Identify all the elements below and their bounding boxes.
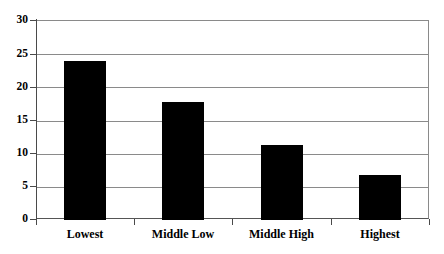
y-tick-label-25: 25 [0, 48, 28, 60]
x-tick-label-middle-low: Middle Low [134, 228, 232, 240]
bar-middle-low[interactable] [162, 102, 204, 220]
x-tick-label-lowest: Lowest [36, 228, 134, 240]
y-tick-mark-30 [30, 20, 36, 21]
bar-middle-high[interactable] [261, 145, 303, 220]
y-tick-label-5: 5 [0, 180, 28, 192]
x-tick-mark-1 [134, 219, 135, 225]
y-tick-label-10: 10 [0, 147, 28, 159]
plot-area [36, 20, 429, 219]
y-tick-label-15: 15 [0, 114, 28, 126]
x-tick-mark-0 [36, 219, 37, 225]
bar-lowest[interactable] [64, 61, 106, 220]
y-axis-line [36, 19, 37, 220]
x-tick-mark-3 [331, 219, 332, 225]
bar-chart: 30 25 20 15 10 5 0 Lowest Middle Low Mid… [0, 0, 444, 254]
chart-title [0, 0, 444, 12]
x-tick-mark-2 [232, 219, 233, 225]
y-tick-label-20: 20 [0, 81, 28, 93]
gridline-25 [36, 54, 429, 55]
y-tick-mark-5 [30, 186, 36, 187]
x-tick-mark-4 [429, 219, 430, 225]
y-tick-label-0: 0 [0, 213, 28, 225]
x-tick-label-middle-high: Middle High [232, 228, 331, 240]
y-tick-mark-10 [30, 153, 36, 154]
y-tick-mark-20 [30, 87, 36, 88]
y-axis-tick-labels: 30 25 20 15 10 5 0 [0, 0, 28, 254]
x-tick-label-highest: Highest [331, 228, 429, 240]
y-tick-mark-15 [30, 120, 36, 121]
y-tick-label-30: 30 [0, 14, 28, 26]
bar-highest[interactable] [359, 175, 401, 220]
y-tick-mark-25 [30, 54, 36, 55]
